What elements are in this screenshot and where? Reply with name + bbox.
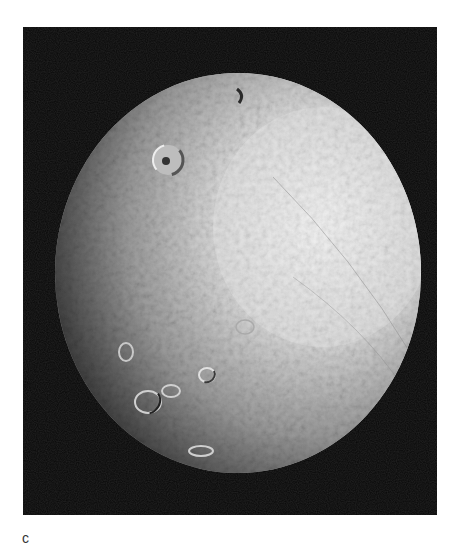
panel-label: c (22, 531, 29, 545)
moon-illustration (23, 27, 437, 515)
moon-photograph (23, 27, 437, 515)
